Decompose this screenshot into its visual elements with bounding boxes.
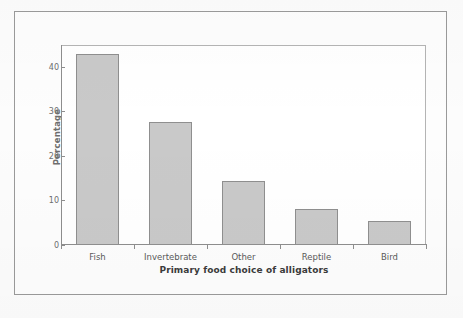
y-tick-mark-20 [61,156,65,157]
bar-bird[interactable] [368,221,411,245]
x-category-label-fish: Fish [61,252,134,263]
x-category-label-other: Other [207,252,280,263]
y-tick-40: 40 [37,62,65,73]
y-tick-label-10: 10 [49,195,59,206]
y-tick-label-40: 40 [49,62,59,73]
y-tick-label-0: 0 [54,240,59,251]
y-tick-mark-40 [61,67,65,68]
bar-fish[interactable] [76,54,119,245]
scanned-page: Percentage 0 10 20 30 40 [0,0,463,318]
y-tick-label-20: 20 [49,151,59,162]
x-tick-boundary-3 [280,245,281,249]
x-axis-title: Primary food choice of alligators [61,265,427,275]
y-tick-label-30: 30 [49,106,59,117]
y-tick-30: 30 [37,106,65,117]
x-tick-boundary-2 [207,245,208,249]
figure-frame: Percentage 0 10 20 30 40 [14,11,447,295]
x-category-label-reptile: Reptile [280,252,353,263]
y-tick-20: 20 [37,151,65,162]
bar-other[interactable] [222,181,265,245]
bar-invertebrate[interactable] [149,122,192,245]
x-tick-boundary-4 [353,245,354,249]
y-axis-line [61,45,62,245]
bar-chart: Percentage 0 10 20 30 40 [15,12,448,296]
bar-reptile[interactable] [295,209,338,245]
y-tick-mark-30 [61,111,65,112]
y-tick-mark-10 [61,200,65,201]
x-tick-boundary-1 [134,245,135,249]
x-category-label-bird: Bird [353,252,426,263]
x-tick-boundary-5 [426,245,427,249]
x-tick-boundary-0 [61,245,62,249]
x-category-label-invertebrate: Invertebrate [134,252,207,263]
y-tick-10: 10 [37,195,65,206]
